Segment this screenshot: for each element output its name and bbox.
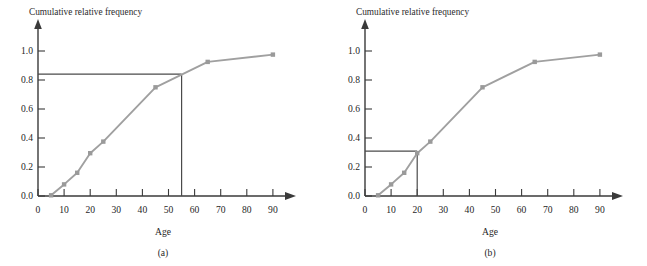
y-axis-b bbox=[361, 19, 369, 196]
y-tick-label: 0.2 bbox=[348, 161, 360, 172]
data-point-marker bbox=[415, 151, 419, 155]
x-axis-a bbox=[38, 192, 296, 200]
data-point-marker bbox=[101, 139, 105, 143]
y-tick-labels-b: 0.0 0.2 0.4 0.6 0.8 1.0 bbox=[348, 45, 360, 201]
y-ticks-b bbox=[365, 51, 372, 196]
x-tick-label: 90 bbox=[268, 204, 278, 215]
data-point-marker bbox=[88, 151, 92, 155]
x-tick-label: 20 bbox=[85, 204, 95, 215]
y-tick-label: 0.0 bbox=[21, 190, 33, 201]
x-ticks-a bbox=[38, 189, 273, 196]
data-point-marker bbox=[480, 85, 484, 89]
x-axis-label: Age bbox=[155, 226, 171, 237]
y-tick-label: 0.6 bbox=[348, 103, 360, 114]
x-tick-label: 60 bbox=[190, 204, 200, 215]
y-tick-label: 0.8 bbox=[348, 74, 360, 85]
x-tick-label: 50 bbox=[490, 204, 500, 215]
x-tick-label: 90 bbox=[595, 204, 605, 215]
x-tick-label: 10 bbox=[386, 204, 396, 215]
data-point-marker bbox=[153, 85, 157, 89]
y-tick-label: 0.6 bbox=[21, 103, 33, 114]
ogive-curve bbox=[51, 55, 273, 196]
x-tick-label: 70 bbox=[542, 204, 552, 215]
x-tick-label: 30 bbox=[438, 204, 448, 215]
x-tick-label: 60 bbox=[516, 204, 526, 215]
y-tick-label: 0.4 bbox=[348, 132, 360, 143]
data-point-marker bbox=[532, 60, 536, 64]
x-tick-label: 0 bbox=[362, 204, 367, 215]
x-tick-labels-a: 0 10 20 30 40 50 60 70 80 90 bbox=[36, 204, 278, 215]
y-tick-label: 0.4 bbox=[21, 132, 33, 143]
data-point-marker bbox=[206, 60, 210, 64]
x-axis-label: Age bbox=[482, 226, 498, 237]
chart-svg-a: Cumulative relative frequency bbox=[0, 0, 323, 266]
x-tick-label: 50 bbox=[164, 204, 174, 215]
data-point-marker bbox=[375, 193, 379, 197]
chart-svg-b: Cumulative relative frequency bbox=[324, 0, 647, 266]
chart-panel-b: Cumulative relative frequency bbox=[324, 0, 647, 266]
x-tick-label: 20 bbox=[412, 204, 422, 215]
x-tick-label: 80 bbox=[569, 204, 579, 215]
x-tick-label: 30 bbox=[112, 204, 122, 215]
ogive-curve bbox=[378, 55, 600, 196]
data-point-marker bbox=[49, 193, 53, 197]
panel-caption-b: (b) bbox=[484, 247, 495, 259]
panel-caption-a: (a) bbox=[158, 247, 169, 259]
x-tick-label: 10 bbox=[59, 204, 69, 215]
x-tick-label: 80 bbox=[242, 204, 252, 215]
x-tick-label: 0 bbox=[36, 204, 41, 215]
y-tick-labels-a: 0.0 0.2 0.4 0.6 0.8 1.0 bbox=[21, 45, 33, 201]
chart-title: Cumulative relative frequency bbox=[29, 7, 142, 17]
chart-panel-a: Cumulative relative frequency bbox=[0, 0, 324, 266]
x-tick-label: 40 bbox=[138, 204, 148, 215]
data-point-marker bbox=[271, 52, 275, 56]
y-tick-label: 1.0 bbox=[348, 45, 360, 56]
y-tick-label: 0.0 bbox=[348, 190, 360, 201]
y-ticks-a bbox=[38, 51, 45, 196]
x-tick-label: 40 bbox=[464, 204, 474, 215]
data-point-marker bbox=[402, 171, 406, 175]
y-tick-label: 0.8 bbox=[21, 74, 33, 85]
x-axis-b bbox=[365, 192, 623, 200]
x-ticks-b bbox=[365, 189, 600, 196]
y-tick-label: 1.0 bbox=[21, 45, 33, 56]
chart-title: Cumulative relative frequency bbox=[356, 7, 469, 17]
data-point-markers-b bbox=[375, 52, 601, 197]
data-point-marker bbox=[62, 182, 66, 186]
x-tick-label: 70 bbox=[216, 204, 226, 215]
data-point-marker bbox=[428, 139, 432, 143]
data-point-marker bbox=[597, 52, 601, 56]
x-tick-labels-b: 0 10 20 30 40 50 60 70 80 90 bbox=[362, 204, 604, 215]
data-point-marker bbox=[388, 182, 392, 186]
figure-container: Cumulative relative frequency bbox=[0, 0, 647, 266]
data-point-marker bbox=[75, 171, 79, 175]
y-axis-a bbox=[34, 19, 42, 196]
y-tick-label: 0.2 bbox=[21, 161, 33, 172]
